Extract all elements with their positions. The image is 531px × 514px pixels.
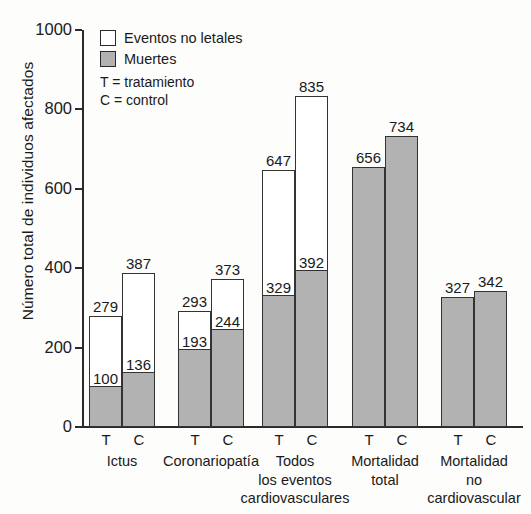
y-tick-mark bbox=[75, 29, 82, 31]
bar-total-label: 342 bbox=[468, 274, 513, 289]
bar-segment-deaths bbox=[123, 372, 154, 426]
y-tick-label: 200 bbox=[0, 339, 72, 356]
x-arm-label-t: T bbox=[262, 432, 296, 447]
bar-total-label: 835 bbox=[289, 79, 334, 94]
bar-segment-deaths bbox=[212, 329, 243, 426]
x-arm-label-c: C bbox=[385, 432, 419, 447]
x-group-label-line: cardiovasculares bbox=[220, 489, 370, 508]
x-arm-label-c: C bbox=[295, 432, 329, 447]
bar-segment-deaths bbox=[179, 349, 210, 426]
y-tick-mark bbox=[75, 108, 82, 110]
y-tick-mark bbox=[75, 188, 82, 190]
y-tick-mark bbox=[75, 347, 82, 349]
legend-note-control: C = control bbox=[100, 92, 243, 110]
bar-deaths-label: 392 bbox=[289, 255, 334, 270]
y-tick-label: 1000 bbox=[0, 21, 72, 38]
bar-chart: Número total de individuos afectados 020… bbox=[0, 0, 531, 514]
x-arm-label-c: C bbox=[474, 432, 508, 447]
bar-mortalidad-total-c bbox=[385, 136, 418, 427]
y-tick-label: 800 bbox=[0, 100, 72, 117]
bar-total-label: 387 bbox=[116, 256, 161, 271]
x-arm-label-t: T bbox=[178, 432, 212, 447]
legend: Eventos no letales Muertes T = tratamien… bbox=[100, 30, 243, 109]
x-group-label-line: cardiovascular bbox=[399, 489, 531, 508]
bar-mortalidad-total-t bbox=[352, 167, 385, 427]
legend-item-nonfatal: Eventos no letales bbox=[100, 30, 243, 46]
legend-note-treatment: T = tratamiento bbox=[100, 74, 243, 92]
y-axis-line bbox=[82, 30, 84, 428]
bar-deaths-label: 136 bbox=[116, 357, 161, 372]
x-arm-label-t: T bbox=[352, 432, 386, 447]
bar-total-label: 734 bbox=[379, 119, 424, 134]
bar-mortalidad-no-cardiovascular-t bbox=[441, 297, 474, 427]
legend-label-nonfatal: Eventos no letales bbox=[124, 30, 243, 46]
bar-segment-deaths bbox=[263, 295, 294, 426]
bar-coronariopat-a-c bbox=[211, 279, 244, 427]
x-group-label-line: Mortalidad bbox=[399, 452, 531, 471]
bar-mortalidad-no-cardiovascular-c bbox=[474, 291, 507, 427]
bar-segment-deaths bbox=[90, 386, 121, 426]
bar-total-label: 373 bbox=[205, 262, 250, 277]
x-arm-label-t: T bbox=[89, 432, 123, 447]
legend-swatch-white-icon bbox=[100, 30, 116, 46]
y-tick-label: 0 bbox=[0, 418, 72, 435]
x-arm-label-c: C bbox=[122, 432, 156, 447]
legend-item-deaths: Muertes bbox=[100, 51, 243, 67]
bar-segment-deaths bbox=[296, 270, 327, 426]
bar-todos-los-eventos-cardiovasculares-t bbox=[262, 170, 295, 427]
y-tick-mark bbox=[75, 267, 82, 269]
legend-label-deaths: Muertes bbox=[124, 51, 176, 67]
x-group-label: Mortalidadnocardiovascular bbox=[399, 452, 531, 508]
bar-ictus-c bbox=[122, 273, 155, 427]
x-arm-label-c: C bbox=[211, 432, 245, 447]
x-group-label-line: no bbox=[399, 471, 531, 490]
y-tick-mark bbox=[75, 426, 82, 428]
y-tick-label: 400 bbox=[0, 259, 72, 276]
bar-deaths-label: 244 bbox=[205, 314, 250, 329]
legend-swatch-gray-icon bbox=[100, 51, 116, 67]
y-tick-label: 600 bbox=[0, 180, 72, 197]
x-arm-label-t: T bbox=[441, 432, 475, 447]
legend-notes: T = tratamiento C = control bbox=[100, 74, 243, 109]
